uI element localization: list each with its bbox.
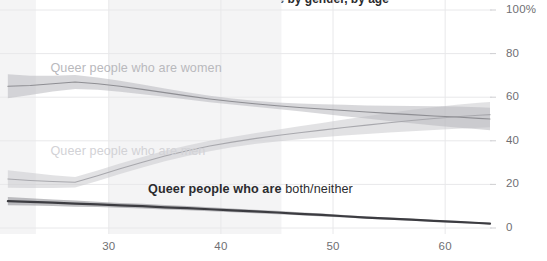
series-label-both-neither-bold: Queer people who are xyxy=(148,182,285,196)
x-axis-tick-label: 60 xyxy=(439,240,452,252)
x-axis-tick-label: 40 xyxy=(214,240,227,252)
series-label-men: Queer people who are men xyxy=(50,144,205,158)
chart-container: Share of queer people by gender, by age … xyxy=(0,0,547,261)
y-axis-tick-label: 20 xyxy=(506,177,519,189)
x-axis-tick-label: 50 xyxy=(326,240,339,252)
y-axis-tick-label: 60 xyxy=(506,90,519,102)
series-label-both-neither: Queer people who are both/neither xyxy=(148,182,353,196)
y-axis-tick-label: 40 xyxy=(506,134,519,146)
series-label-both-neither-regular: both/neither xyxy=(285,182,353,196)
series-label-women: Queer people who are women xyxy=(50,61,221,75)
chart-plot-area xyxy=(0,0,547,261)
y-axis-tick-label: 80 xyxy=(506,47,519,59)
x-axis-tick-label: 30 xyxy=(102,240,115,252)
axis-tick-marks xyxy=(490,10,496,228)
y-axis-tick-label: 100% xyxy=(506,3,536,15)
y-axis-tick-label: 0 xyxy=(506,221,513,233)
